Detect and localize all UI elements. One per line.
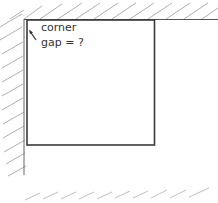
floor-hatching [25,188,209,200]
arrow-icon [29,30,36,41]
ceiling-hatching [10,3,218,19]
wall-hatching [0,14,26,176]
annotation-line2: gap = ? [41,36,84,49]
annotation-line1: corner [41,21,77,34]
corner-gap-diagram: corner gap = ? [0,0,218,203]
